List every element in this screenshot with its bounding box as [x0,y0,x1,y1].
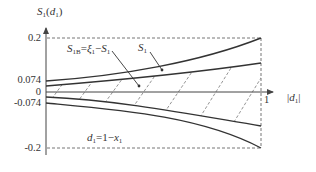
annotation-d1-definition: d1=1−x1 [87,132,122,145]
annotation-s1: S1 [138,42,147,55]
y-tick-0: 0 [1,87,41,98]
y-tick-0.2: 0.2 [1,33,41,44]
d1-x-sub: 1 [119,137,123,145]
y-axis-label: S1(d1) [37,6,62,19]
annotation-s1b: S1B=ξ1−S1 [67,43,110,56]
curve-s1b-upper [46,63,261,86]
y-tick-neg-0.074: -0.074 [1,98,41,109]
y-tick-0.074: 0.074 [1,75,41,86]
x-axis-label: |d1| [287,92,300,105]
leader-s1b [112,51,139,86]
x-label-d-sub: 1 [295,97,299,105]
s1b-s2-sub: 1 [107,48,111,56]
x-tick-1: 1 [264,95,269,106]
curve-s1b-lower [46,97,261,126]
s1b-sub: 1B [73,48,81,56]
d1-eq: =1− [96,131,114,143]
diagram-canvas [0,0,316,172]
s1-sub: 1 [144,47,148,55]
leader-s1b-dot [138,85,141,88]
leader-s1-dot [161,69,164,72]
y-tick-neg-0.2: -0.2 [1,143,41,154]
hatched-region [40,60,272,135]
curve-s1-lower [46,103,261,148]
